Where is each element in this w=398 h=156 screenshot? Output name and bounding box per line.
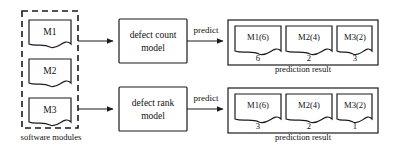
result-2-item-label-2: M2(4) bbox=[286, 101, 332, 110]
model-label-2-line1: defect rank bbox=[119, 97, 187, 110]
result-1-item-label-1: M1(6) bbox=[235, 33, 281, 42]
model-label-1-line2: model bbox=[119, 42, 187, 55]
result-2-caption: prediction result bbox=[244, 133, 362, 142]
predict-label-2: predict bbox=[186, 94, 226, 103]
result-2-item-value-1: 3 bbox=[243, 122, 273, 131]
result-2-item-label-3: M3(2) bbox=[336, 101, 374, 110]
predict-label-1: predict bbox=[186, 26, 226, 35]
model-label-1: defect count model bbox=[119, 29, 187, 55]
result-1-item-label-3: M3(2) bbox=[336, 33, 374, 42]
model-label-2-line2: model bbox=[119, 110, 187, 123]
model-label-2: defect rank model bbox=[119, 97, 187, 123]
module-label-m1: M1 bbox=[29, 28, 71, 38]
result-1-item-value-2: 2 bbox=[294, 54, 324, 63]
module-label-m2: M2 bbox=[29, 67, 71, 77]
model-label-1-line1: defect count bbox=[119, 29, 187, 42]
diagram-root: M1 M2 M3 software modules defect count m… bbox=[0, 0, 398, 156]
software-modules-caption: software modules bbox=[12, 133, 90, 142]
result-2-item-label-1: M1(6) bbox=[235, 101, 281, 110]
result-1-caption: prediction result bbox=[244, 65, 362, 74]
result-2-item-value-3: 1 bbox=[340, 122, 370, 131]
result-1-item-value-3: 3 bbox=[340, 54, 370, 63]
module-label-m3: M3 bbox=[29, 106, 71, 116]
result-2-item-value-2: 2 bbox=[294, 122, 324, 131]
result-1-item-label-2: M2(4) bbox=[286, 33, 332, 42]
result-1-item-value-1: 6 bbox=[243, 54, 273, 63]
